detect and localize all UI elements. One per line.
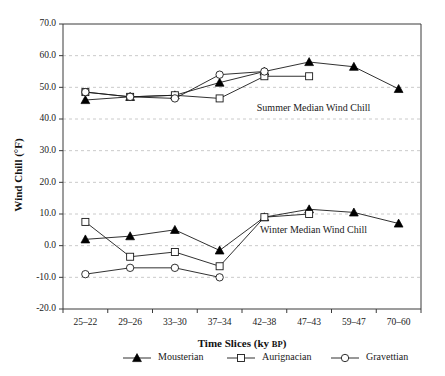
x-tick-label: 42–38 — [253, 317, 277, 327]
x-axis-ticks: 25–2229–2633–3037–3442–3847–4359–4770–60 — [63, 309, 421, 327]
legend-label: Gravettian — [366, 351, 408, 362]
series-gravettian — [82, 68, 268, 102]
plot-border — [63, 24, 421, 309]
y-tick-label: -20.0 — [36, 303, 56, 313]
x-tick-label: 29–26 — [118, 317, 142, 327]
data-point-open-square — [82, 218, 89, 225]
data-point-open-square — [306, 73, 313, 80]
data-point-open-circle — [126, 264, 133, 271]
legend-item-aurignacian[interactable]: Aurignacian — [227, 351, 311, 362]
y-tick-label: 0.0 — [44, 240, 56, 250]
y-tick-label: 50.0 — [39, 82, 56, 92]
legend-label: Mousterian — [158, 351, 204, 362]
wind-chill-chart-figure: 70.060.050.040.030.020.010.00.0-10.0-20.… — [0, 0, 445, 376]
data-point-open-square — [306, 211, 313, 218]
data-point-filled-triangle — [215, 246, 224, 254]
data-point-open-circle — [82, 88, 89, 95]
x-tick-label: 59–47 — [342, 317, 366, 327]
data-point-open-square — [261, 214, 268, 221]
data-point-open-circle — [216, 274, 223, 281]
y-tick-label: 70.0 — [39, 18, 56, 28]
x-tick-label: 25–22 — [74, 317, 98, 327]
data-point-open-circle — [261, 68, 268, 75]
x-axis-title-text: Time Slices (ky BP) — [198, 337, 287, 350]
legend-item-mousterian[interactable]: Mousterian — [123, 351, 204, 362]
y-tick-label: 10.0 — [39, 208, 56, 218]
y-tick-label: 40.0 — [39, 113, 56, 123]
data-point-filled-triangle — [170, 225, 179, 233]
data-point-open-circle — [126, 93, 133, 100]
data-point-open-circle — [82, 270, 89, 277]
x-tick-label: 47–43 — [297, 317, 321, 327]
legend-item-gravettian[interactable]: Gravettian — [331, 351, 408, 362]
series-gravettian — [82, 264, 224, 281]
chart-annotation: Winter Median Wind Chill — [260, 224, 367, 235]
series-group — [81, 205, 403, 281]
y-tick-label: 20.0 — [39, 177, 56, 187]
data-point-filled-triangle — [305, 58, 314, 66]
x-tick-label: 33–30 — [163, 317, 187, 327]
y-tick-label: 60.0 — [39, 50, 56, 60]
x-tick-label: 70–60 — [387, 317, 411, 327]
series-line — [85, 268, 219, 278]
chart-canvas: 70.060.050.040.030.020.010.00.0-10.0-20.… — [0, 0, 445, 376]
data-point-open-square — [127, 253, 134, 260]
data-point-open-circle — [171, 264, 178, 271]
chart-annotation: Summer Median Wind Chill — [257, 102, 371, 113]
plot-gridlines — [63, 56, 421, 278]
data-point-filled-triangle — [394, 85, 403, 93]
series-group — [81, 58, 403, 104]
y-axis-title: Wind Chill (°F) — [12, 138, 25, 212]
y-tick-label: 30.0 — [39, 145, 56, 155]
legend: MousterianAurignacianGravettian — [123, 351, 408, 362]
legend-label: Aurignacian — [262, 351, 311, 362]
y-axis-ticks: 70.060.050.040.030.020.010.00.0-10.0-20.… — [36, 18, 63, 313]
legend-marker-open-square — [238, 355, 245, 362]
x-axis-title: Time Slices (ky BP) — [198, 337, 287, 350]
data-point-open-square — [171, 249, 178, 256]
y-tick-label: -10.0 — [36, 272, 56, 282]
plot-frame — [63, 24, 421, 309]
data-point-open-square — [216, 95, 223, 102]
data-point-open-square — [216, 263, 223, 270]
data-series-layer — [81, 58, 403, 281]
data-point-open-circle — [171, 95, 178, 102]
data-point-open-circle — [216, 71, 223, 78]
legend-marker-open-circle — [341, 354, 348, 361]
x-tick-label: 37–34 — [208, 317, 232, 327]
